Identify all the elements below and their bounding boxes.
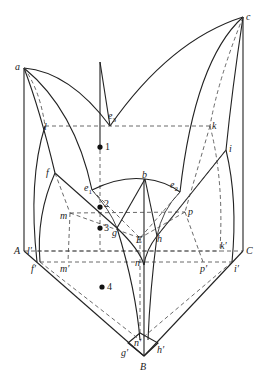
label-C: C (246, 246, 253, 256)
label-point-3: 3 (104, 223, 109, 233)
dash-p-E (140, 212, 185, 238)
dash-iprime-nprime (140, 262, 232, 340)
label-k-prime: k′ (220, 241, 227, 251)
dash-m-mprime (68, 213, 70, 262)
curve-a-f (24, 68, 55, 173)
curve-h-hprime (148, 236, 157, 340)
dash-k-p (185, 126, 210, 212)
label-point-1: 1 (105, 142, 110, 152)
point-1 (97, 144, 102, 149)
label-i: i (229, 144, 232, 154)
phase-diagram: a c b A B C e3 e1 e2 E l k i f m g h p n… (0, 0, 262, 383)
curve-a-e3 (24, 68, 110, 126)
dash-p-pprime (185, 212, 203, 262)
label-f-prime: f′ (31, 264, 36, 274)
curve-c-e3 (110, 17, 243, 126)
edge-AB (24, 251, 144, 356)
line-b-g (117, 179, 145, 228)
label-e2: e2 (170, 180, 178, 193)
line-b-h (145, 179, 157, 236)
label-p: p (188, 207, 193, 217)
label-k: k (212, 121, 216, 131)
dashed-m-p (70, 212, 185, 213)
edge-CB (144, 251, 243, 356)
label-h-prime: h′ (157, 345, 164, 355)
label-n-prime: n′ (134, 338, 141, 348)
dash-fprime-nprime (40, 262, 140, 340)
label-p-prime: p′ (200, 264, 207, 274)
label-point-4: 4 (107, 282, 112, 292)
curve-f-fprime (39, 173, 55, 262)
curve-c-i (226, 17, 243, 150)
label-A: A (14, 246, 20, 256)
label-m-prime: m′ (60, 264, 69, 274)
point-2 (97, 204, 102, 209)
label-a: a (15, 62, 20, 72)
label-m: m (60, 211, 67, 221)
label-g: g (112, 228, 117, 238)
label-h: h (157, 234, 162, 244)
curve-i-iprime (226, 150, 234, 262)
curve-k-kprime (210, 126, 221, 249)
label-l-prime: l′ (27, 246, 32, 256)
label-point-2: 2 (104, 199, 109, 209)
label-b: b (142, 170, 147, 180)
label-g-prime: g′ (121, 348, 128, 358)
label-n: n (135, 258, 140, 268)
label-B: B (140, 362, 146, 372)
label-i-prime: i′ (234, 264, 239, 274)
curve-c-k (210, 17, 243, 126)
label-E: E (136, 235, 142, 245)
label-l: l (44, 122, 47, 132)
label-e1: e1 (84, 183, 92, 196)
base-quad (128, 333, 158, 356)
point-4 (99, 284, 104, 289)
curve-e1-b-e2 (92, 178, 180, 192)
point-3 (97, 225, 102, 230)
diagram-canvas (0, 0, 262, 383)
label-f: f (46, 168, 49, 178)
label-c: c (246, 12, 250, 22)
label-e3: e3 (108, 111, 116, 124)
